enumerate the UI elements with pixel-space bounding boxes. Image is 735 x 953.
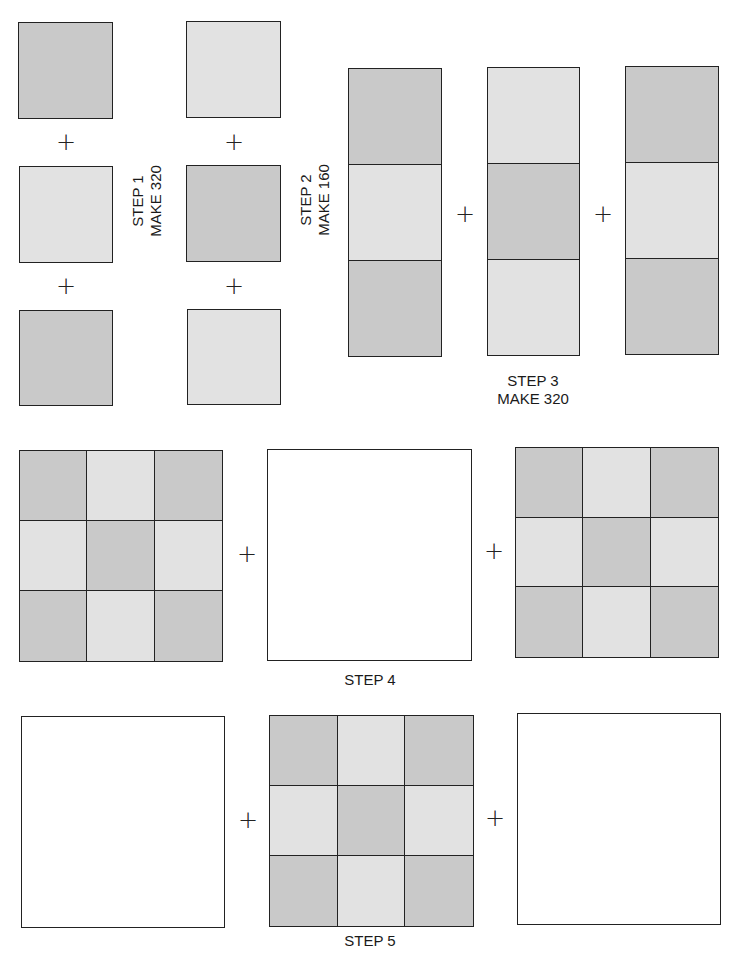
plus-icon: + — [453, 202, 477, 226]
patch-cell — [338, 786, 406, 856]
step5-nine-patch — [269, 715, 474, 927]
step2-square-3 — [187, 309, 281, 405]
strip-cell — [626, 163, 718, 259]
patch-cell — [516, 448, 583, 518]
strip-cell — [488, 260, 579, 355]
step3-strip-1 — [348, 68, 442, 357]
patch-cell — [155, 591, 222, 661]
patch-cell — [270, 786, 338, 856]
plus-icon: + — [222, 274, 246, 298]
patch-cell — [583, 518, 650, 588]
step2-label: STEP 2 MAKE 160 — [297, 155, 333, 245]
step4-plain-block — [267, 449, 472, 661]
plus-icon: + — [54, 274, 78, 298]
strip-cell — [626, 259, 718, 354]
patch-cell — [20, 591, 87, 661]
step1-label-line2: MAKE 320 — [147, 156, 165, 246]
patch-cell — [651, 448, 718, 518]
plus-icon: + — [54, 130, 78, 154]
patch-cell — [651, 518, 718, 588]
patch-cell — [87, 521, 154, 591]
plus-icon: + — [236, 808, 260, 832]
patch-cell — [87, 591, 154, 661]
strip-cell — [488, 68, 579, 164]
plus-icon: + — [222, 130, 246, 154]
step5-plain-block-left — [21, 716, 225, 928]
strip-cell — [626, 67, 718, 163]
step3-strip-2 — [487, 67, 580, 356]
plus-icon: + — [235, 542, 259, 566]
step2-square-2 — [186, 165, 281, 262]
patch-cell — [338, 856, 406, 926]
patch-cell — [20, 451, 87, 521]
step1-square-1 — [18, 22, 113, 119]
step4-nine-patch-left — [19, 450, 223, 662]
strip-cell — [349, 69, 441, 165]
step2-label-line1: STEP 2 — [297, 155, 315, 245]
patch-cell — [87, 451, 154, 521]
patch-cell — [155, 451, 222, 521]
patch-cell — [405, 856, 473, 926]
step3-label: STEP 3 MAKE 320 — [483, 372, 583, 408]
patch-cell — [583, 587, 650, 657]
step5-plain-block-right — [517, 713, 721, 925]
patch-cell — [405, 786, 473, 856]
step3-strip-3 — [625, 66, 719, 355]
strip-cell — [349, 165, 441, 261]
patch-cell — [20, 521, 87, 591]
patch-cell — [516, 518, 583, 588]
plus-icon: + — [483, 806, 507, 830]
step1-label-line1: STEP 1 — [129, 156, 147, 246]
patch-cell — [270, 856, 338, 926]
patch-cell — [270, 716, 338, 786]
step1-square-2 — [19, 166, 113, 263]
step3-label-line2: MAKE 320 — [483, 390, 583, 408]
patch-cell — [155, 521, 222, 591]
plus-icon: + — [482, 539, 506, 563]
step5-label: STEP 5 — [320, 932, 420, 950]
patch-cell — [405, 716, 473, 786]
step3-label-line1: STEP 3 — [483, 372, 583, 390]
step1-label: STEP 1 MAKE 320 — [129, 156, 165, 246]
strip-cell — [349, 261, 441, 356]
step2-square-1 — [186, 21, 281, 118]
patch-cell — [651, 587, 718, 657]
step4-label: STEP 4 — [320, 671, 420, 689]
step1-square-3 — [19, 310, 113, 406]
patch-cell — [516, 587, 583, 657]
strip-cell — [488, 164, 579, 260]
step2-label-line2: MAKE 160 — [315, 155, 333, 245]
patch-cell — [338, 716, 406, 786]
patch-cell — [583, 448, 650, 518]
step4-nine-patch-right — [515, 447, 719, 658]
plus-icon: + — [591, 202, 615, 226]
